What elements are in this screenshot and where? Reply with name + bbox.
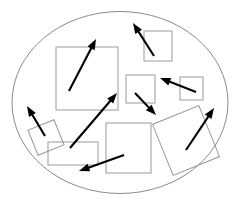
rect-bottom-center	[106, 123, 151, 173]
arrow-head	[27, 106, 36, 117]
rectangles-layer	[28, 31, 220, 175]
arrow-head	[160, 78, 171, 86]
rect-right-small	[180, 77, 203, 100]
drawing-canvas	[0, 0, 244, 206]
shapes-scene	[0, 0, 244, 206]
arrow-head	[205, 108, 214, 119]
arrow-head	[133, 23, 142, 34]
